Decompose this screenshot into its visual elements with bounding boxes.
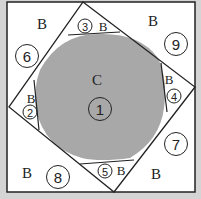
fabric-label-b-2: B <box>27 92 36 105</box>
fabric-label-b-7: B <box>151 167 161 182</box>
fabric-label-b-6: B <box>37 17 47 32</box>
piece-number-4: 4 <box>167 89 182 104</box>
piece-number-6: 6 <box>15 44 39 68</box>
piece-number-3: 3 <box>78 19 93 34</box>
fabric-label-b-9: B <box>148 14 158 29</box>
piece-number-5: 5 <box>98 164 113 179</box>
fabric-label-b-4: B <box>165 73 174 86</box>
fabric-label-b-3: B <box>99 20 108 33</box>
fabric-label-b-8: B <box>22 166 32 181</box>
piece-number-2: 2 <box>23 105 38 120</box>
piece-number-1: 1 <box>88 97 112 121</box>
piece-number-9: 9 <box>164 32 188 56</box>
piece-number-8: 8 <box>46 165 70 189</box>
fabric-label-c: C <box>92 73 102 88</box>
piece-number-7: 7 <box>164 132 188 156</box>
fabric-label-b-5: B <box>117 164 126 177</box>
